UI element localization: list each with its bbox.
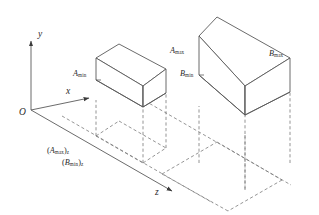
box-a-max-sub: max [175,49,184,55]
ground-label-a-max-z: (Amax)z [47,147,69,155]
figure-canvas: y x z O Amax Amin Bmax Bmin (Amax)z (Bmi… [0,0,319,215]
origin-label: O [19,108,26,118]
x-axis [31,98,89,110]
box-b-min-sub: min [185,72,194,78]
ground-a-sub: max [55,149,64,155]
ground-b-axis-sub: z [81,161,83,167]
ground-projection-group [62,92,291,211]
diagram-svg [0,0,319,215]
a-footprint-edge-right [143,148,166,163]
y-axis-label: y [38,30,42,40]
x-axis-label: x [66,87,70,97]
box-a-min-label: Amin [73,70,87,78]
box-b-min-label: Bmin [180,70,194,78]
ground-rail-far [140,98,291,185]
box-b-group [199,17,290,115]
ground-a-axis-sub: z [67,149,69,155]
box-a-min-sub: min [78,72,87,78]
box-a-group [96,44,166,107]
b-footprint-edge-front [162,142,217,174]
a-footprint-edge-left [96,121,119,136]
box-b-max-label: Bmax [269,50,283,58]
ground-b-sub: min [70,161,79,167]
box-a-max-label: Amax [170,47,184,55]
box-b-max-sub: max [274,52,283,58]
ground-label-b-min-z: (Bmin)z [62,159,83,167]
b-footprint-edge-right [228,180,282,211]
z-axis-label: z [155,188,159,198]
a-footprint-edge-back [119,121,166,148]
a-footprint-edge-front [96,136,143,163]
